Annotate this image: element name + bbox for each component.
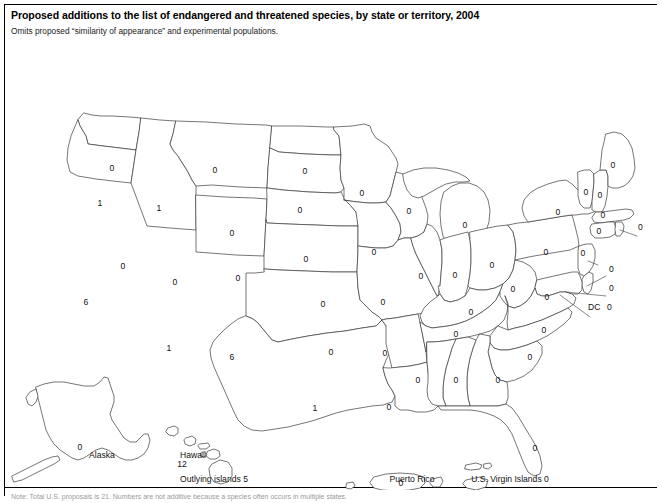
state-value-MT: 0 [213, 166, 218, 175]
state-value-MA: 0 [601, 211, 606, 220]
state-value-MS: 0 [416, 376, 421, 385]
state-value-NY: 0 [556, 208, 561, 217]
state-outlines [67, 113, 635, 476]
state-value-NV: 0 [121, 262, 126, 271]
inset-label-virgin-islands: U.S. Virgin Islands 0 [471, 475, 549, 484]
state-value-AZ: 1 [167, 344, 172, 353]
map-outlines [0, 40, 661, 490]
state-value-AK: 0 [78, 443, 83, 452]
state-IN [438, 232, 471, 302]
state-value-NC: 0 [542, 326, 547, 335]
state-value-ME: 0 [611, 161, 616, 170]
state-AK [36, 377, 150, 460]
state-CT [590, 222, 616, 238]
inset-label-alaska: Alaska [89, 451, 115, 460]
inset-label-hawaii: Hawaii [180, 451, 206, 460]
state-value-HI: 12 [177, 460, 187, 469]
state-value-WV: 0 [511, 285, 516, 294]
inset-label-puerto-rico: Puerto Rico [390, 475, 435, 484]
state-value-OR: 1 [98, 199, 103, 208]
state-value-IL: 0 [419, 272, 424, 281]
state-value-WY: 0 [230, 229, 235, 238]
state-value-OH: 0 [490, 261, 495, 270]
figure-title: Proposed additions to the list of endang… [11, 9, 641, 22]
state-AK-panhandle [26, 389, 38, 406]
state-HI-oahu [184, 436, 196, 446]
territory-PR-mona [346, 482, 355, 489]
state-value-SC: 0 [528, 353, 533, 362]
figure-footnote: Note: Total U.S. proposals is 21. Number… [11, 492, 651, 501]
state-value-GA: 0 [496, 376, 501, 385]
state-KS [264, 220, 358, 272]
state-value-ID: 1 [157, 204, 162, 213]
state-HI-molokai [198, 443, 210, 449]
state-value-AR: 0 [383, 349, 388, 358]
territory-VI-stthomas [465, 463, 482, 470]
state-value-NM: 6 [230, 353, 235, 362]
state-value-KS: 0 [321, 300, 326, 309]
state-value-KY: 0 [469, 308, 474, 317]
state-RI [615, 222, 624, 236]
state-value-TN: 0 [454, 330, 459, 339]
state-value-WA: 0 [110, 164, 115, 173]
state-value-ND: 0 [303, 167, 308, 176]
state-ND [270, 126, 341, 155]
state-value-IN: 0 [453, 271, 458, 280]
state-value-AL: 0 [454, 376, 459, 385]
callout-label-DC: DC [588, 303, 600, 312]
state-HI-maui [206, 449, 220, 459]
figure-page: Proposed additions to the list of endang… [0, 0, 661, 503]
state-value-FL: 0 [533, 444, 538, 453]
state-value-TX: 1 [313, 404, 318, 413]
state-value-WI: 0 [407, 207, 412, 216]
state-WY [196, 195, 267, 256]
state-value-NJ: 0 [581, 249, 586, 258]
state-value-NH: 0 [598, 191, 603, 200]
state-HI-kauai [166, 426, 178, 436]
state-value-VA: 0 [545, 293, 550, 302]
callout-value-MD: 0 [609, 284, 614, 293]
state-value-VT: 0 [584, 188, 589, 197]
state-value-MI: 0 [463, 221, 468, 230]
figure-subtitle: Omits proposed “similarity of appearance… [11, 26, 641, 37]
state-value-MO: 0 [381, 298, 386, 307]
state-value-SD: 0 [298, 206, 303, 215]
callout-value-DC: 0 [607, 303, 612, 312]
inset-label-outlying-islands: Outlying islands 5 [180, 475, 248, 484]
inset-alaska [12, 377, 150, 482]
us-map: 0 1 6 0 1 0 0 0 1 0 6 0 0 0 0 0 1 0 0 0 … [0, 40, 661, 490]
state-value-MN: 0 [360, 189, 365, 198]
state-value-CO: 0 [236, 274, 241, 283]
state-value-OK: 0 [329, 348, 334, 357]
state-value-UT: 0 [173, 278, 178, 287]
state-value-PA: 0 [544, 248, 549, 257]
state-value-CA: 6 [84, 298, 89, 307]
territory-VI-stjohn [484, 463, 492, 469]
frame-top-rule [4, 4, 657, 5]
state-value-NE: 0 [304, 255, 309, 264]
state-value-CT: 0 [597, 227, 602, 236]
callout-value-RI: 0 [638, 223, 643, 232]
state-value-LA: 0 [387, 403, 392, 412]
callout-value-DE: 0 [609, 265, 614, 274]
state-MN [334, 124, 398, 203]
state-AK-aleutians-1 [12, 456, 60, 482]
state-value-IA: 0 [372, 248, 377, 257]
